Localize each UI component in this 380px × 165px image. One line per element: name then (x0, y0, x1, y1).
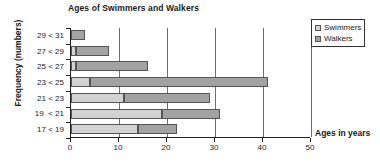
x-axis-tick-label: 50 (298, 143, 322, 152)
y-axis-tick-label: 17 < 19 (0, 125, 64, 134)
x-axis-tick-label: 40 (250, 143, 274, 152)
chart-legend: Swimmers Walkers (311, 19, 365, 47)
y-axis-tick-label: 19 < 21 (0, 109, 64, 118)
x-axis-title: Ages in years (315, 128, 370, 138)
y-axis-tick-label: 21 < 23 (0, 94, 64, 103)
bar-row (71, 59, 310, 75)
x-axis-tick-label: 10 (106, 143, 130, 152)
plot-area (70, 28, 310, 138)
y-axis-tick-label: 27 < 29 (0, 47, 64, 56)
bar-segment-walkers (90, 77, 268, 87)
bar-segment-walkers (76, 46, 110, 56)
bar-segment-walkers (138, 124, 176, 134)
y-axis-tick (66, 59, 70, 60)
y-axis-tick (66, 138, 70, 139)
bar-segment-swimmers (71, 93, 124, 103)
bar-row (71, 28, 310, 44)
x-axis-tick (214, 138, 215, 142)
bar-row (71, 44, 310, 60)
x-axis-tick (166, 138, 167, 142)
bar-segment-swimmers (71, 124, 138, 134)
legend-item-walkers: Walkers (315, 33, 361, 44)
legend-item-swimmers: Swimmers (315, 22, 361, 33)
bar-segment-swimmers (71, 109, 162, 119)
chart-title: Ages of Swimmers and Walkers (68, 3, 199, 13)
x-axis-tick (262, 138, 263, 142)
x-axis-tick-label: 0 (58, 143, 82, 152)
bar-segment-swimmers (71, 77, 90, 87)
y-axis-tick-label: 23 < 25 (0, 78, 64, 87)
x-axis-tick-label: 30 (202, 143, 226, 152)
bar-segment-walkers (124, 93, 210, 103)
y-axis-tick (66, 122, 70, 123)
bar-segment-walkers (162, 109, 220, 119)
y-axis-tick-label: 29 < 31 (0, 31, 64, 40)
y-axis-tick (66, 44, 70, 45)
y-axis-tick (66, 91, 70, 92)
y-axis-tick (66, 75, 70, 76)
y-axis-tick (66, 28, 70, 29)
bar-segment-walkers (76, 61, 148, 71)
bar-row (71, 91, 310, 107)
legend-swatch-swimmers-icon (315, 25, 321, 31)
bar-row (71, 75, 310, 91)
y-axis-tick-label: 25 < 27 (0, 62, 64, 71)
x-axis-tick-label: 20 (154, 143, 178, 152)
legend-label-swimmers: Swimmers (324, 22, 361, 33)
y-axis-tick (66, 107, 70, 108)
bar-row (71, 107, 310, 123)
x-axis-tick (70, 138, 71, 142)
legend-label-walkers: Walkers (324, 33, 353, 44)
bar-row (71, 122, 310, 138)
bar-segment-walkers (71, 30, 85, 40)
bar-chart: Ages of Swimmers and Walkers Frequency (… (0, 0, 380, 165)
x-axis-tick (310, 138, 311, 142)
x-axis-tick (118, 138, 119, 142)
legend-swatch-walkers-icon (315, 36, 321, 42)
